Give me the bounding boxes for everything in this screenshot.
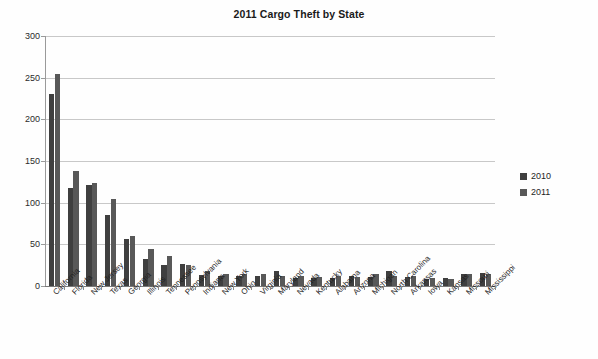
bar-2011[interactable] xyxy=(242,274,247,286)
bar-2010[interactable] xyxy=(124,239,129,287)
bar-2010[interactable] xyxy=(86,185,91,286)
bar-2011[interactable] xyxy=(448,279,453,287)
bar-group[interactable] xyxy=(199,36,210,286)
bar-2011[interactable] xyxy=(430,278,435,286)
bar-2011[interactable] xyxy=(336,276,341,286)
y-axis-tick-label: 250 xyxy=(6,74,40,83)
y-axis-tick-label: 100 xyxy=(6,199,40,208)
bar-group[interactable] xyxy=(293,36,304,286)
x-axis-tick-mark xyxy=(439,286,440,290)
bar-2010[interactable] xyxy=(293,278,298,286)
bar-group[interactable] xyxy=(405,36,416,286)
bar-2011[interactable] xyxy=(205,271,210,286)
bar-2010[interactable] xyxy=(105,215,110,286)
bar-2010[interactable] xyxy=(386,271,391,286)
x-axis-tick-mark xyxy=(383,286,384,290)
bar-2010[interactable] xyxy=(443,278,448,286)
x-axis-tick-mark xyxy=(420,286,421,290)
x-axis-tick-mark xyxy=(176,286,177,290)
legend-swatch-icon xyxy=(520,189,527,196)
x-axis-tick-mark xyxy=(308,286,309,290)
bar-2011[interactable] xyxy=(111,199,116,287)
bar-2011[interactable] xyxy=(355,277,360,286)
bar-group[interactable] xyxy=(443,36,454,286)
x-axis-tick-mark xyxy=(101,286,102,290)
bar-2010[interactable] xyxy=(68,188,73,286)
bar-2011[interactable] xyxy=(467,274,472,286)
y-axis-line xyxy=(45,36,46,287)
y-axis-tick-label: 0 xyxy=(6,282,40,291)
bar-2010[interactable] xyxy=(274,271,279,286)
bar-2011[interactable] xyxy=(92,183,97,286)
bar-2010[interactable] xyxy=(330,278,335,286)
x-axis-tick-mark xyxy=(195,286,196,290)
bar-group[interactable] xyxy=(124,36,135,286)
bar-2010[interactable] xyxy=(368,277,373,286)
bar-2011[interactable] xyxy=(186,265,191,286)
bar-2010[interactable] xyxy=(405,277,410,286)
bar-2010[interactable] xyxy=(311,278,316,286)
bar-group[interactable] xyxy=(236,36,247,286)
bar-group[interactable] xyxy=(349,36,360,286)
bar-group[interactable] xyxy=(218,36,229,286)
bar-2010[interactable] xyxy=(255,276,260,286)
x-axis-tick-mark xyxy=(214,286,215,290)
bar-group[interactable] xyxy=(68,36,79,286)
x-axis-tick-mark xyxy=(495,286,496,290)
x-axis-tick-mark xyxy=(251,286,252,290)
bar-2011[interactable] xyxy=(148,249,153,287)
bar-group[interactable] xyxy=(386,36,397,286)
bar-group[interactable] xyxy=(105,36,116,286)
y-axis-tick-label: 150 xyxy=(6,157,40,166)
bar-2010[interactable] xyxy=(218,276,223,286)
bar-2010[interactable] xyxy=(161,265,166,286)
bar-2010[interactable] xyxy=(143,259,148,287)
x-axis-tick-mark xyxy=(83,286,84,290)
x-axis-tick-mark xyxy=(401,286,402,290)
bar-group[interactable] xyxy=(274,36,285,286)
bar-2010[interactable] xyxy=(480,273,485,286)
bar-2010[interactable] xyxy=(49,94,54,286)
bar-group[interactable] xyxy=(255,36,266,286)
bar-2010[interactable] xyxy=(236,276,241,286)
bar-group[interactable] xyxy=(311,36,322,286)
bar-2010[interactable] xyxy=(349,276,354,286)
bar-2010[interactable] xyxy=(180,264,185,287)
bar-2011[interactable] xyxy=(280,276,285,286)
bar-2011[interactable] xyxy=(73,171,78,286)
bar-2010[interactable] xyxy=(199,275,204,286)
legend-item-2011[interactable]: 2011 xyxy=(520,184,590,200)
x-axis-tick-mark xyxy=(270,286,271,290)
x-axis-tick-mark xyxy=(326,286,327,290)
bar-group[interactable] xyxy=(461,36,472,286)
bar-group[interactable] xyxy=(368,36,379,286)
plot-area xyxy=(45,36,495,286)
bar-2011[interactable] xyxy=(55,74,60,287)
y-axis-tick-labels: 050100150200250300 xyxy=(0,36,40,287)
bar-2011[interactable] xyxy=(486,274,491,286)
legend-item-2010[interactable]: 2010 xyxy=(520,168,590,184)
bar-2010[interactable] xyxy=(424,279,429,287)
bar-2011[interactable] xyxy=(317,277,322,286)
bar-2011[interactable] xyxy=(167,256,172,286)
bar-2011[interactable] xyxy=(373,274,378,287)
bar-group[interactable] xyxy=(424,36,435,286)
y-axis-tick-label: 50 xyxy=(6,240,40,249)
bar-2011[interactable] xyxy=(261,274,266,286)
bar-group[interactable] xyxy=(49,36,60,286)
bar-group[interactable] xyxy=(480,36,491,286)
bar-2011[interactable] xyxy=(298,276,303,286)
x-axis-tick-mark xyxy=(289,286,290,290)
bar-group[interactable] xyxy=(161,36,172,286)
bar-group[interactable] xyxy=(143,36,154,286)
bar-2011[interactable] xyxy=(411,276,416,286)
bar-2011[interactable] xyxy=(223,274,228,287)
legend-label: 2010 xyxy=(531,171,551,181)
bar-2010[interactable] xyxy=(461,274,466,286)
bar-2011[interactable] xyxy=(130,236,135,286)
bar-group[interactable] xyxy=(86,36,97,286)
bar-group[interactable] xyxy=(180,36,191,286)
chart-title: 2011 Cargo Theft by State xyxy=(0,8,598,20)
bar-group[interactable] xyxy=(330,36,341,286)
bar-2011[interactable] xyxy=(392,276,397,286)
